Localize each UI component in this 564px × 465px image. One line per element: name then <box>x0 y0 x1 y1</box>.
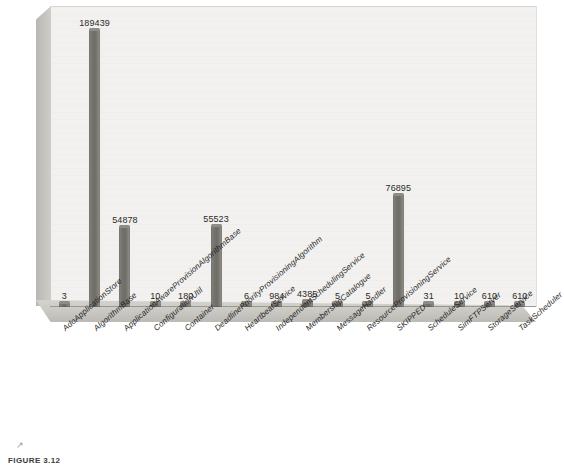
bar-value-label: 31 <box>424 291 434 301</box>
bar-top-face <box>393 193 404 196</box>
bar-value-label: 55523 <box>203 214 229 224</box>
bar-value-label: 54878 <box>112 215 138 225</box>
bar-value-label: 3 <box>62 291 67 301</box>
bar-value-label: 189439 <box>79 18 110 28</box>
bar-chart: 3189439548781018055523698443855576895311… <box>36 6 536 322</box>
bar-column[interactable] <box>393 195 404 307</box>
scan-artifact-icon: ↗ <box>16 440 26 448</box>
bar-top-face <box>59 301 70 304</box>
bar-top-face <box>211 224 222 227</box>
bar-value-label: 76895 <box>386 183 412 193</box>
bar-column[interactable] <box>89 30 100 307</box>
figure-caption: FIGURE 3.12 <box>8 456 60 465</box>
bar-top-face <box>423 301 434 304</box>
bar-top-face <box>119 225 130 228</box>
bar-column[interactable] <box>211 226 222 307</box>
bar-top-face <box>89 28 100 31</box>
bar-column[interactable] <box>59 303 70 307</box>
